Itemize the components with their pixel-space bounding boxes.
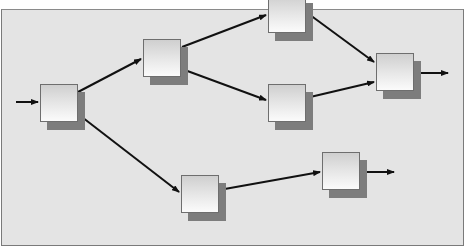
node-3 (268, 0, 306, 33)
node-box (322, 152, 360, 190)
node-4 (268, 84, 306, 122)
node-box (181, 175, 219, 213)
node-6 (181, 175, 219, 213)
node-box (143, 39, 181, 77)
node-box (40, 84, 78, 122)
node-5 (376, 53, 414, 91)
node-box (268, 0, 306, 33)
node-7 (322, 152, 360, 190)
node-1 (40, 84, 78, 122)
node-box (376, 53, 414, 91)
node-box (268, 84, 306, 122)
node-2 (143, 39, 181, 77)
